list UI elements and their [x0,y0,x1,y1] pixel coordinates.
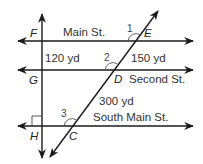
point-g-label: G [29,74,38,86]
south-main-street-label: South Main St. [93,111,168,123]
point-e-label: E [144,27,152,39]
right-angle-mark [32,116,42,126]
angle-3-label: 3 [61,108,67,119]
distance-dc-label: 300 yd [99,95,134,107]
point-h-label: H [30,130,39,142]
street-diagram: F E G D H C Main St. Second St. South Ma… [0,0,203,164]
angle-3-arc [64,119,77,126]
distance-fg-label: 120 yd [45,52,80,64]
second-street-label: Second St. [129,73,185,85]
point-d-label: D [114,73,122,85]
angle-1-label: 1 [127,23,133,34]
angle-2-label: 2 [104,52,110,63]
distance-ed-label: 150 yd [131,52,166,64]
main-street-label: Main St. [63,26,105,38]
point-f-label: F [30,27,38,39]
point-c-label: C [69,130,78,142]
